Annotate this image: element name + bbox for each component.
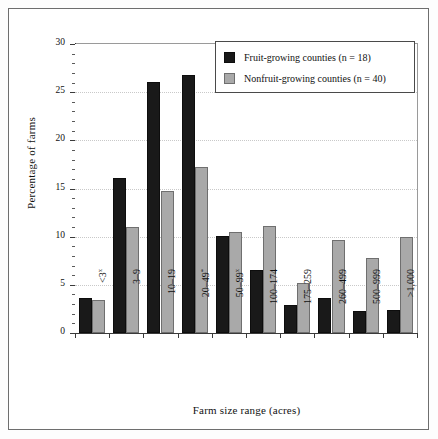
y-axis-minor-tick (72, 304, 75, 305)
x-axis-category-label: 20–49* (200, 269, 212, 339)
y-axis-minor-tick (72, 294, 75, 295)
y-axis-major-tick (70, 44, 75, 45)
y-axis-major-tick (70, 285, 75, 286)
x-axis-tick (109, 333, 110, 338)
x-axis-category-label: 175–259 (302, 269, 314, 339)
y-axis-tick-labels: 051015202530 (39, 9, 65, 439)
x-axis-category-label: 260–499 (337, 269, 349, 339)
legend-label: Nonfruit-growing counties (n = 40) (244, 73, 386, 84)
y-axis-minor-tick (72, 246, 75, 247)
legend-item: Fruit-growing counties (n = 18) (224, 47, 406, 68)
y-axis-tick-label: 5 (39, 279, 65, 289)
bar (216, 236, 229, 333)
y-axis-tick-label: 0 (39, 327, 65, 337)
bar (79, 298, 92, 333)
legend-swatch-dark (224, 52, 235, 63)
y-axis-tick-label: 10 (39, 231, 65, 241)
y-axis-minor-tick (72, 275, 75, 276)
y-axis-title: Percentage of farms (25, 53, 37, 273)
y-axis-minor-tick (72, 208, 75, 209)
x-axis-category-label: 50–99x (234, 269, 246, 339)
legend-item: Nonfruit-growing counties (n = 40) (224, 68, 406, 89)
gridline (75, 140, 417, 141)
y-axis-minor-tick (72, 198, 75, 199)
y-axis-tick-label: 30 (39, 38, 65, 48)
x-axis-tick (246, 333, 247, 338)
y-axis-tick-label: 15 (39, 183, 65, 193)
y-axis-minor-tick (72, 179, 75, 180)
y-axis-minor-tick (72, 266, 75, 267)
plot-right-spine (417, 43, 418, 334)
y-axis-minor-tick (72, 83, 75, 84)
bar (250, 270, 263, 333)
y-axis-minor-tick (72, 54, 75, 55)
y-axis-major-tick (70, 189, 75, 190)
bar (318, 298, 331, 333)
bar (387, 310, 400, 333)
y-axis-minor-tick (72, 227, 75, 228)
y-axis-minor-tick (72, 73, 75, 74)
y-axis-minor-tick (72, 102, 75, 103)
y-axis-minor-tick (72, 217, 75, 218)
y-axis-major-tick (70, 140, 75, 141)
figure-frame: 051015202530 <3x3–910–1920–49*50–99x100–… (8, 8, 429, 430)
y-axis-minor-tick (72, 160, 75, 161)
bar (113, 178, 126, 333)
bar (284, 305, 297, 333)
x-axis-tick-origin (75, 333, 76, 338)
y-axis-minor-tick (72, 150, 75, 151)
y-axis-minor-tick (72, 169, 75, 170)
bar (182, 75, 195, 333)
x-axis-category-label: 10–19 (166, 269, 178, 339)
y-axis-minor-tick (72, 323, 75, 324)
legend-label: Fruit-growing counties (n = 18) (244, 52, 371, 63)
y-axis-tick-label: 25 (39, 86, 65, 96)
x-axis-tick (280, 333, 281, 338)
x-axis-category-label: 500–999 (371, 269, 383, 339)
x-axis-tick (143, 333, 144, 338)
bar (147, 82, 160, 333)
y-axis-major-tick (70, 237, 75, 238)
x-axis-tick (314, 333, 315, 338)
gridline (75, 189, 417, 190)
y-axis-minor-tick (72, 111, 75, 112)
x-axis-category-label: <3x (97, 269, 109, 339)
y-axis-minor-tick (72, 121, 75, 122)
legend-swatch-light (224, 73, 235, 84)
y-axis-minor-tick (72, 256, 75, 257)
x-axis-category-label: 3–9 (131, 269, 143, 339)
y-axis-tick-label: 20 (39, 134, 65, 144)
x-axis-category-label: >1,000 (405, 269, 417, 339)
y-axis-minor-tick (72, 314, 75, 315)
y-axis-minor-tick (72, 63, 75, 64)
figure: 051015202530 <3x3–910–1920–49*50–99x100–… (0, 0, 438, 439)
x-axis-title: Farm size range (acres) (75, 404, 418, 416)
y-axis-minor-tick (72, 131, 75, 132)
x-axis-category-label: 100–174 (268, 269, 280, 339)
legend: Fruit-growing counties (n = 18)Nonfruit-… (215, 41, 415, 93)
bar (353, 311, 366, 333)
x-axis-tick (417, 333, 418, 338)
y-axis-major-tick (70, 92, 75, 93)
